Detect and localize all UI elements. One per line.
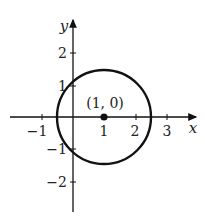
y-tick-label: 2 — [58, 45, 67, 61]
x-tick-label: 1 — [100, 123, 109, 139]
circle-plot: −1 1 2 3 2 1 −1 −2 x y (1, 0) — [0, 0, 205, 223]
x-tick-label: 2 — [131, 123, 140, 139]
x-axis-label: x — [189, 119, 198, 137]
y-axis-label: y — [59, 17, 69, 35]
y-tick-label: −2 — [46, 174, 67, 190]
center-point — [100, 113, 107, 120]
x-tick-label: −1 — [27, 123, 48, 139]
x-tick-label: 3 — [163, 123, 172, 139]
center-point-label: (1, 0) — [86, 95, 124, 111]
